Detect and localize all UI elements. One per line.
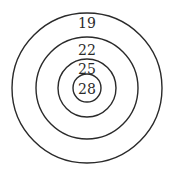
ring-label-outer: 19 bbox=[78, 15, 96, 31]
ring-label-third: 25 bbox=[78, 61, 96, 77]
ring-label-second: 22 bbox=[78, 42, 96, 58]
ring-label-inner: 28 bbox=[78, 81, 96, 97]
target-diagram: 19 22 25 28 bbox=[0, 0, 169, 176]
